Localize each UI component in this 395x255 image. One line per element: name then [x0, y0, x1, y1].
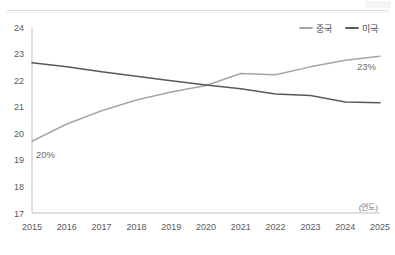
x-tick-label: 2024 — [335, 222, 355, 232]
series-line-미국 — [32, 63, 380, 103]
y-tick-label: 20 — [14, 129, 24, 139]
y-tick-label: 24 — [14, 23, 24, 33]
x-tick-label: 2018 — [126, 222, 146, 232]
series-lines — [32, 56, 380, 141]
x-tick-label: 2023 — [300, 222, 320, 232]
x-tick-label: 2016 — [57, 222, 77, 232]
line-chart: 2423222120191817 20152016201720182019202… — [0, 0, 395, 255]
chart-page: 2423222120191817 20152016201720182019202… — [0, 0, 395, 255]
y-tick-label: 22 — [14, 76, 24, 86]
y-tick-label: 23 — [14, 49, 24, 59]
x-tick-label: 2021 — [231, 222, 251, 232]
y-axis-tick-labels: 2423222120191817 — [14, 23, 24, 219]
data-label-20%: 20% — [36, 149, 56, 160]
x-tick-label: 2020 — [196, 222, 216, 232]
legend-label-미국: 미국 — [362, 24, 378, 34]
x-axis-tick-labels: 2015201620172018201920202021202220232024… — [22, 222, 390, 232]
legend-label-중국: 중국 — [316, 24, 332, 34]
y-tick-label: 18 — [14, 182, 24, 192]
x-tick-label: 2019 — [161, 222, 181, 232]
data-label-23%: 23% — [357, 61, 377, 72]
y-tick-label: 19 — [14, 155, 24, 165]
x-tick-label: 2015 — [22, 222, 42, 232]
x-axis-unit-label: (연도) — [359, 203, 379, 212]
x-tick-label: 2022 — [266, 222, 286, 232]
data-annotations: 20%23% — [36, 61, 377, 160]
chart-legend: 미국중국 — [300, 24, 378, 34]
x-tick-label: 2017 — [92, 222, 112, 232]
y-tick-label: 21 — [14, 102, 24, 112]
y-tick-label: 17 — [14, 209, 24, 219]
x-tick-label: 2025 — [370, 222, 390, 232]
